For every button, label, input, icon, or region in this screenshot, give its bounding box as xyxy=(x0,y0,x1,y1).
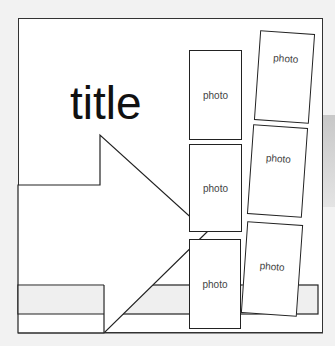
photo-label: photo xyxy=(203,183,228,194)
photo-label: photo xyxy=(259,260,285,273)
photo-label: photo xyxy=(273,52,299,65)
photo-label: photo xyxy=(266,152,292,165)
photo-frame: photo xyxy=(247,124,308,218)
photo-label: photo xyxy=(203,90,228,101)
photo-frame: photo xyxy=(189,144,242,232)
photo-frame: photo xyxy=(254,30,315,124)
photo-frame: photo xyxy=(189,50,242,140)
page-title: title xyxy=(70,80,142,126)
photo-label: photo xyxy=(202,279,227,290)
photo-frame: photo xyxy=(241,221,303,317)
photo-frame: photo xyxy=(189,239,241,329)
